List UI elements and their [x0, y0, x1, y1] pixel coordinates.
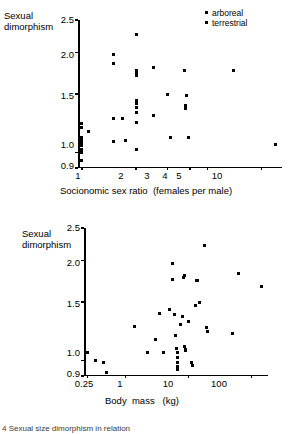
x-axis-tick — [81, 167, 82, 170]
data-point — [181, 315, 184, 318]
y-tick-label-top-3: 1.0 — [44, 140, 74, 150]
data-point — [179, 323, 182, 326]
data-point — [105, 371, 108, 374]
data-point — [80, 144, 83, 147]
data-point — [80, 159, 83, 162]
data-point — [176, 361, 179, 364]
data-point — [135, 33, 138, 36]
x-axis-line-bottom — [84, 375, 268, 377]
data-point — [187, 320, 190, 323]
data-point — [80, 139, 83, 142]
data-point — [184, 107, 187, 110]
data-point — [135, 148, 138, 151]
data-point — [87, 130, 90, 133]
plot-area-top — [78, 20, 282, 168]
data-point — [86, 351, 89, 354]
data-point — [112, 140, 115, 143]
y-tick-label-top-1: 2.0 — [44, 50, 74, 60]
data-point — [274, 143, 277, 146]
x-tick-label-top-2: 3 — [137, 171, 157, 181]
data-point — [80, 136, 83, 139]
data-point — [171, 262, 174, 265]
data-point — [112, 53, 115, 56]
data-point — [135, 106, 138, 109]
legend-label-arboreal: arboreal — [212, 8, 243, 18]
x-tick-label-top-0: 1 — [68, 171, 88, 181]
y-axis-tick — [81, 375, 84, 376]
y-axis-tick — [81, 360, 84, 361]
data-point — [80, 126, 83, 129]
data-point — [166, 93, 169, 96]
y-tick-label-bottom-0: 2.5 — [50, 223, 80, 233]
x-axis-tick — [188, 375, 189, 378]
y-axis-tick — [75, 152, 78, 153]
data-point — [112, 62, 115, 65]
x-axis-title-top: Socionomic sex ratio (females per male) — [60, 185, 232, 196]
data-point — [191, 364, 194, 367]
data-point — [135, 121, 138, 124]
data-point — [133, 325, 136, 328]
data-point — [232, 69, 235, 72]
data-point — [158, 312, 161, 315]
data-point — [176, 356, 179, 359]
data-point — [135, 74, 138, 77]
data-point — [102, 361, 105, 364]
data-point — [80, 141, 83, 144]
x-tick-label-bottom-3: 100 — [207, 379, 231, 389]
data-point — [185, 94, 188, 97]
data-point — [80, 122, 83, 125]
x-axis-title-bottom: Body mass (kg) — [105, 395, 179, 406]
data-point — [203, 244, 206, 247]
data-point — [260, 285, 263, 288]
data-point — [146, 351, 149, 354]
y-tick-label-bottom-3: 1.0 — [50, 348, 80, 358]
data-point — [231, 332, 234, 335]
data-point — [162, 351, 165, 354]
figure-caption: 4 Sexual size dimorphism in relation — [2, 424, 294, 433]
data-point — [80, 151, 83, 154]
y-axis-tick — [75, 93, 78, 94]
plot-area-bottom — [84, 228, 268, 376]
data-point — [237, 272, 240, 275]
data-point — [194, 304, 197, 307]
data-point — [154, 338, 157, 341]
y-axis-title-bottom-line2: dimorphism — [22, 239, 71, 250]
data-point — [112, 117, 115, 120]
data-point — [121, 117, 124, 120]
square-marker-icon — [205, 11, 208, 14]
x-axis-tick — [135, 167, 136, 170]
data-point — [152, 114, 155, 117]
x-tick-label-bottom-0: 0.25 — [70, 379, 98, 389]
x-tick-label-bottom-2: 10 — [158, 379, 178, 389]
data-point — [171, 278, 174, 281]
y-axis-line-bottom — [84, 228, 86, 376]
data-point — [80, 148, 83, 151]
y-axis-tick — [75, 52, 78, 53]
data-point — [175, 347, 178, 350]
y-axis-tick — [81, 301, 84, 302]
data-point — [205, 326, 208, 329]
data-point — [135, 111, 138, 114]
data-point — [206, 330, 209, 333]
x-tick-label-top-5: 10 — [207, 171, 227, 181]
y-tick-label-top-4: 0.9 — [44, 161, 74, 171]
data-point — [168, 308, 171, 311]
y-axis-tick — [75, 19, 78, 20]
data-point — [183, 69, 186, 72]
x-tick-label-top-1: 2 — [111, 171, 131, 181]
data-point — [152, 66, 155, 69]
y-tick-label-top-2: 1.5 — [44, 91, 74, 101]
x-tick-label-top-4: 5 — [169, 171, 189, 181]
data-point — [169, 136, 172, 139]
data-point — [183, 274, 186, 277]
x-axis-tick — [207, 167, 208, 170]
y-tick-label-bottom-2: 1.5 — [50, 299, 80, 309]
y-axis-tick — [81, 260, 84, 261]
x-axis-tick — [251, 375, 252, 378]
data-point — [174, 334, 177, 337]
data-point — [184, 349, 187, 352]
y-axis-tick — [81, 227, 84, 228]
data-point — [173, 313, 176, 316]
chart-panel-body-mass: Sexual dimorphism 2.5 2.0 1.5 1.0 0.9 0.… — [0, 206, 296, 418]
x-axis-line-top — [78, 167, 282, 169]
